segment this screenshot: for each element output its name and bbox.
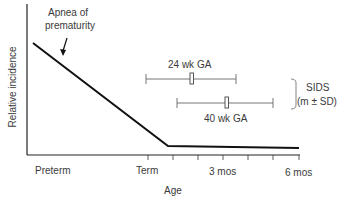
apnea-series-line [33, 43, 299, 148]
y-axis-label: Relative incidence [8, 42, 18, 132]
sids-label: SIDS [306, 83, 329, 93]
errorbar-24wk [146, 73, 236, 84]
x-ticks [148, 155, 299, 160]
ga40-label: 40 wk GA [204, 114, 247, 124]
apnea-arrow-icon [60, 38, 67, 56]
x-tick-term: Term [136, 166, 158, 176]
ga24-label: 24 wk GA [168, 60, 211, 70]
x-tick-3mos: 3 mos [209, 167, 236, 177]
errorbar-40wk [177, 97, 273, 108]
msd-label: (m ± SD) [297, 97, 337, 107]
x-tick-preterm: Preterm [35, 166, 71, 176]
x-axis-label: Age [164, 186, 182, 196]
x-tick-6mos: 6 mos [285, 168, 312, 178]
apnea-label-line1: Apnea of [48, 8, 88, 18]
sids-bracket [291, 79, 296, 109]
apnea-label-line2: prematurity [45, 21, 95, 31]
